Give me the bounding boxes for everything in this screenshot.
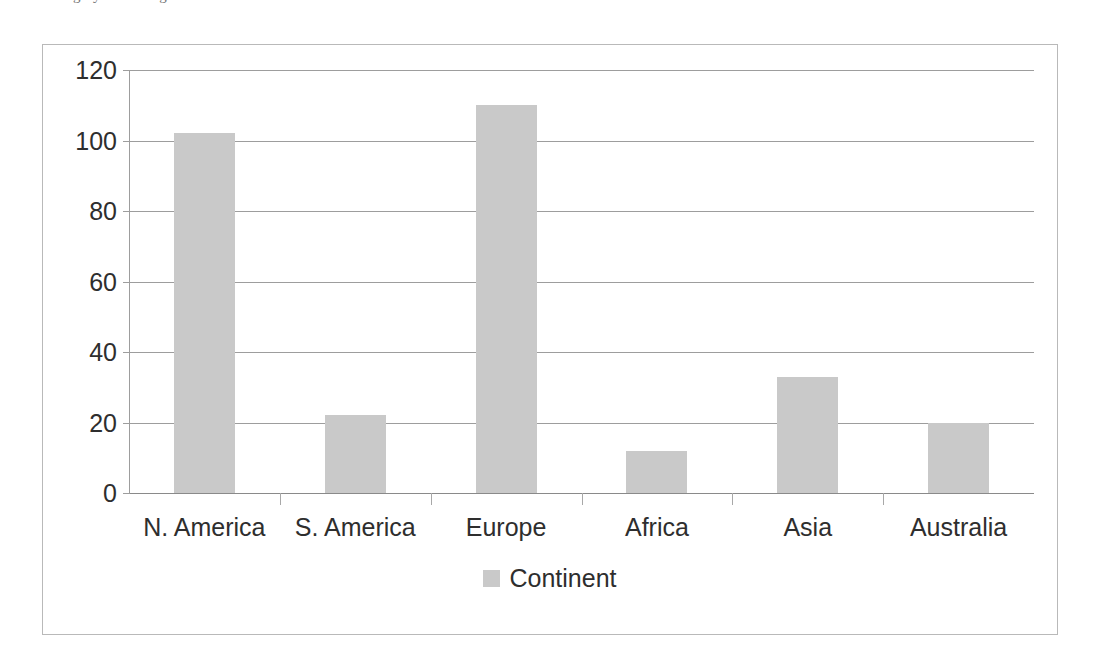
bar-europe (476, 105, 537, 493)
x-axis-label: Asia (783, 513, 832, 542)
x-axis-label: S. America (295, 513, 416, 542)
x-tick-separator (280, 493, 281, 505)
gridline-40 (129, 352, 1034, 353)
x-axis-labels-group: N. AmericaS. AmericaEuropeAfricaAsiaAust… (129, 513, 1034, 549)
y-tick-40 (123, 352, 130, 353)
x-axis-label: Australia (910, 513, 1007, 542)
y-tick-20 (123, 423, 130, 424)
y-axis-label: 100 (75, 126, 117, 155)
gridline-20 (129, 423, 1034, 424)
bar-asia (777, 377, 838, 493)
cut-off-caption: sales category for the regions (16, 0, 716, 5)
bar-s-america (325, 415, 386, 493)
y-tick-0 (123, 493, 130, 494)
gridline-80 (129, 211, 1034, 212)
x-tick-separator (431, 493, 432, 505)
gridline-60 (129, 282, 1034, 283)
y-tick-100 (123, 141, 130, 142)
y-tick-60 (123, 282, 130, 283)
x-axis-label: Africa (625, 513, 689, 542)
y-axis-label: 120 (75, 56, 117, 85)
gridline-100 (129, 141, 1034, 142)
y-axis-label: 80 (89, 197, 117, 226)
x-tick-separator (883, 493, 884, 505)
x-tick-separator (582, 493, 583, 505)
y-axis-label: 20 (89, 408, 117, 437)
bar-australia (928, 423, 989, 494)
y-axis-label: 40 (89, 338, 117, 367)
plot-area: 020406080100120 (129, 70, 1034, 493)
x-axis-label: Europe (466, 513, 547, 542)
y-tick-80 (123, 211, 130, 212)
y-axis-label: 0 (103, 479, 117, 508)
chart-legend: Continent (43, 564, 1057, 593)
legend-label-continent: Continent (509, 564, 616, 593)
chart-frame: 020406080100120 N. AmericaS. AmericaEuro… (42, 44, 1058, 635)
y-axis-label: 60 (89, 267, 117, 296)
y-tick-120 (123, 70, 130, 71)
x-axis-label: N. America (143, 513, 265, 542)
x-tick-separator (732, 493, 733, 505)
bar-africa (626, 451, 687, 493)
legend-swatch-continent (483, 570, 500, 587)
bar-n-america (174, 133, 235, 493)
gridline-120 (129, 70, 1034, 71)
